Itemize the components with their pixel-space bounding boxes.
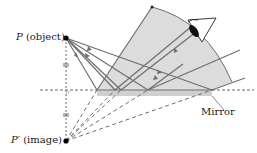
object-label: P (object) [16, 32, 65, 42]
mirror [97, 90, 212, 96]
object-text: (object) [26, 31, 65, 42]
object-symbol: P [16, 31, 23, 42]
equal-distance-mark-top [63, 64, 69, 66]
image-label: P′ (image) [11, 135, 62, 145]
reflection-diagram [0, 0, 257, 153]
mirror-label: Mirror [201, 107, 235, 117]
virtual-rays [66, 90, 212, 141]
image-point [63, 138, 68, 143]
image-text: (image) [23, 134, 62, 145]
image-symbol: P′ [11, 134, 20, 145]
